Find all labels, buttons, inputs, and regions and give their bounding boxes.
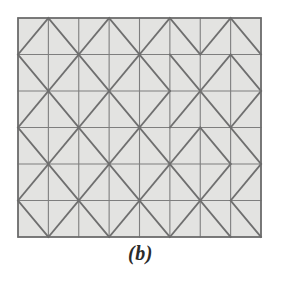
figure-container: (b) (0, 0, 281, 281)
lattice-diagram (0, 0, 281, 281)
figure-caption: (b) (0, 243, 281, 263)
